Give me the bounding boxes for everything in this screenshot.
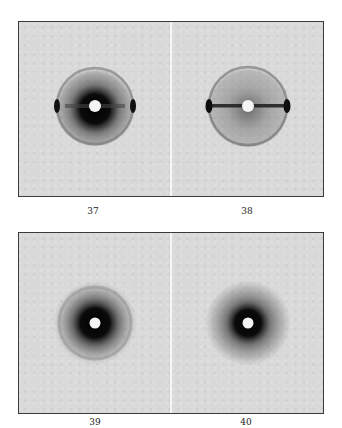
figure-plate-top bbox=[18, 21, 324, 197]
figure-40-caption: 40 bbox=[240, 417, 251, 427]
figure-39-caption: 39 bbox=[89, 417, 100, 427]
figure-37-caption: 37 bbox=[87, 206, 98, 216]
figure-38-panel bbox=[170, 22, 323, 196]
figure-40-panel bbox=[170, 233, 323, 413]
figure-37-panel bbox=[19, 22, 170, 196]
figure-38-caption: 38 bbox=[241, 206, 252, 216]
diffraction-pattern-39 bbox=[20, 234, 170, 412]
diffraction-pattern-37 bbox=[20, 23, 170, 195]
figure-39-panel bbox=[19, 233, 170, 413]
diffraction-pattern-40 bbox=[172, 234, 324, 412]
figure-plate-bottom bbox=[18, 232, 324, 414]
diffraction-pattern-38 bbox=[172, 23, 324, 195]
